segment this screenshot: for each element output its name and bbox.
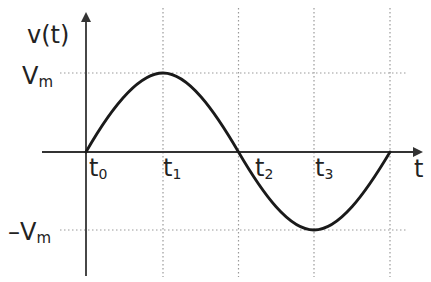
time-mark-t0: t0: [89, 154, 107, 182]
x-axis-label: t: [414, 155, 423, 183]
time-mark-t1: t1: [163, 154, 181, 182]
sine-wave-diagram: v(t) Vm –Vm t t0 t1 t2 t3: [0, 0, 431, 282]
vm-label: Vm: [22, 62, 53, 91]
neg-vm-label: –Vm: [8, 218, 51, 247]
y-axis-label: v(t): [27, 21, 69, 49]
time-mark-t3: t3: [315, 154, 333, 182]
time-mark-t2: t2: [255, 154, 273, 182]
